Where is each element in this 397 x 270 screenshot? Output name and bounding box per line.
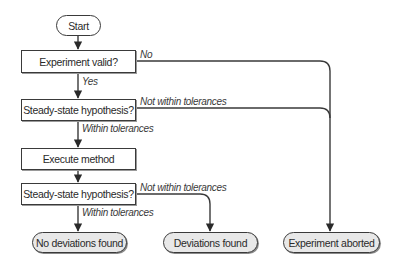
- execute-method-label: Execute method: [43, 153, 115, 165]
- edge-label-not-within-1: Not within tolerances: [140, 96, 227, 107]
- edge-label-within-2: Within tolerances: [82, 207, 154, 218]
- start-label: Start: [68, 20, 89, 32]
- experiment-valid-decision: Experiment valid?: [21, 50, 136, 73]
- edge-label-within-1: Within tolerances: [82, 123, 154, 134]
- steady-state-label-1: Steady-state hypothesis?: [23, 104, 134, 116]
- edge-label-no: No: [140, 49, 152, 60]
- experiment-aborted-label: Experiment aborted: [288, 237, 374, 249]
- experiment-aborted-terminal: Experiment aborted: [283, 232, 380, 253]
- no-deviations-label: No deviations found: [36, 237, 123, 249]
- deviations-found-terminal: Deviations found: [163, 232, 258, 253]
- start-node: Start: [56, 15, 101, 36]
- steady-state-label-2: Steady-state hypothesis?: [23, 188, 134, 200]
- steady-state-decision-2: Steady-state hypothesis?: [21, 183, 136, 205]
- experiment-valid-label: Experiment valid?: [39, 56, 117, 68]
- no-deviations-terminal: No deviations found: [32, 232, 127, 253]
- execute-method-step: Execute method: [21, 148, 136, 170]
- edge-label-yes: Yes: [82, 76, 98, 87]
- deviations-found-label: Deviations found: [174, 237, 247, 249]
- flowchart-connectors: [0, 0, 397, 270]
- steady-state-decision-1: Steady-state hypothesis?: [21, 99, 136, 121]
- edge-label-not-within-2: Not within tolerances: [140, 182, 227, 193]
